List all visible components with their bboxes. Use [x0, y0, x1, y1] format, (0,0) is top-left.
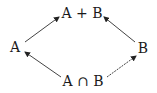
node-a: A [10, 40, 20, 54]
lattice-diagram: A + B A B A ∩ B [0, 0, 157, 93]
node-b: B [138, 41, 148, 55]
edge-b-to-sum [104, 17, 135, 42]
edge-a-to-sum [25, 17, 59, 42]
edge-intersection-to-b [107, 56, 136, 77]
node-sum: A + B [61, 6, 102, 20]
edge-intersection-to-a [25, 52, 61, 77]
node-intersection: A ∩ B [62, 74, 103, 88]
